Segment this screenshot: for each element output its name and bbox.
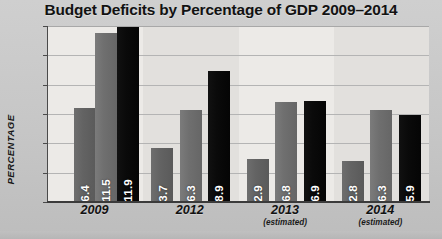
bottom-trim: [0, 231, 442, 239]
x-year-label: 2009: [47, 203, 142, 218]
bar-chart: Budget Deficits by Percentage of GDP 200…: [0, 0, 442, 239]
x-year-label: 2014: [333, 203, 428, 218]
y-axis-title: PERCENTAGE: [5, 102, 16, 198]
x-note-label: (estimated): [333, 218, 428, 228]
x-group-label: 2009: [47, 203, 142, 218]
y-tick-mark: [43, 114, 47, 115]
y-tick-mark: [43, 173, 47, 174]
y-tick-mark: [43, 85, 47, 86]
chart-title: Budget Deficits by Percentage of GDP 200…: [0, 1, 442, 19]
y-tick-mark: [43, 143, 47, 144]
y-tick-mark: [43, 55, 47, 56]
y-axis-ticks: 024681012: [47, 26, 428, 202]
y-axis-title-wrap: PERCENTAGE: [2, 104, 18, 200]
x-note-label: (estimated): [238, 218, 333, 228]
x-group-label: 2012: [142, 203, 237, 218]
y-tick-mark: [43, 26, 47, 27]
x-group-label: 2014(estimated): [333, 203, 428, 228]
x-year-label: 2013: [238, 203, 333, 218]
x-group-label: 2013(estimated): [238, 203, 333, 228]
x-year-label: 2012: [142, 203, 237, 218]
